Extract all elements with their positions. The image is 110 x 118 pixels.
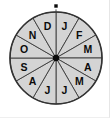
sector-label-july: J <box>45 84 51 96</box>
sector-label-december: D <box>44 20 52 32</box>
sector-label-november: N <box>29 29 37 41</box>
sector-label-april: A <box>84 61 92 73</box>
spinner-hub-icon <box>53 55 59 61</box>
sector-label-june: J <box>62 84 68 96</box>
month-spinner-figure: JFMAMJJASOND <box>0 0 110 118</box>
sector-label-october: O <box>20 43 28 55</box>
spinner-wheel[interactable]: JFMAMJJASOND <box>0 0 110 118</box>
pointer-marker-icon <box>54 4 57 7</box>
sector-label-august: A <box>29 75 37 87</box>
sector-label-january: J <box>62 20 68 32</box>
sector-label-march: M <box>84 43 93 55</box>
sector-label-may: M <box>75 75 84 87</box>
sector-label-september: S <box>21 61 28 73</box>
sector-label-february: F <box>76 29 83 41</box>
